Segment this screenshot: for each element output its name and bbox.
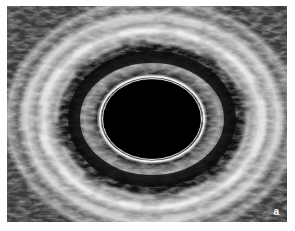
- panel-label: a: [273, 207, 279, 217]
- ultrasound-rendering: [7, 6, 287, 222]
- ultrasound-image: a: [7, 6, 287, 222]
- vessel-lumen: [104, 80, 201, 159]
